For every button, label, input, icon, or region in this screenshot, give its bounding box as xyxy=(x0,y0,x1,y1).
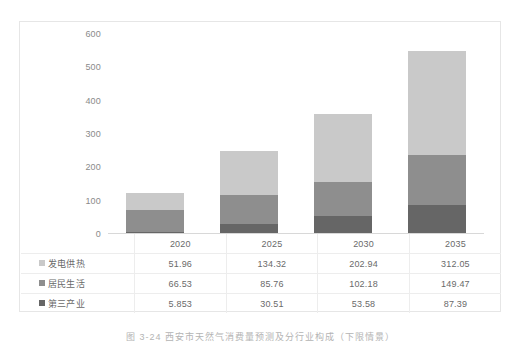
table-corner-cell xyxy=(21,234,135,254)
y-axis-tick-label: 400 xyxy=(85,96,101,106)
legend-item[interactable]: 发电供热 xyxy=(21,254,135,274)
figure-caption: 图 3-24 西安市天然气消费量预测及分行业构成（下限情景） xyxy=(0,330,521,343)
bar-slot xyxy=(202,34,296,234)
bar-segment[interactable] xyxy=(408,51,466,155)
table-cell: 87.39 xyxy=(409,294,501,314)
legend-swatch-icon xyxy=(39,260,45,266)
bar-slot xyxy=(108,34,202,234)
bar-slot xyxy=(390,34,484,234)
y-axis-tick-label: 600 xyxy=(85,29,101,39)
bar-segment[interactable] xyxy=(314,114,372,182)
table-cell: 66.53 xyxy=(135,274,227,294)
table-cell: 30.51 xyxy=(226,294,318,314)
bar-segment[interactable] xyxy=(220,151,278,196)
y-axis-tick-label: 500 xyxy=(85,62,101,72)
table-column-header: 2025 xyxy=(226,234,318,254)
bar-segment[interactable] xyxy=(126,210,184,232)
legend-label: 第三产业 xyxy=(48,299,85,309)
plot-area: 6005004003002001000 xyxy=(108,34,484,262)
bar-group xyxy=(108,34,484,234)
table-cell: 102.18 xyxy=(318,274,410,294)
data-table: 2020202520302035发电供热51.96134.32202.94312… xyxy=(21,234,501,313)
table-column-header: 2020 xyxy=(135,234,227,254)
table-cell: 51.96 xyxy=(135,254,227,274)
table-cell: 134.32 xyxy=(226,254,318,274)
table-cell: 312.05 xyxy=(409,254,501,274)
legend-swatch-icon xyxy=(39,300,45,306)
chart-container: 6005004003002001000 2020202520302035发电供热… xyxy=(19,21,501,312)
bar-segment[interactable] xyxy=(220,195,278,224)
stacked-bar[interactable] xyxy=(314,114,372,234)
y-axis-tick-label: 300 xyxy=(85,129,101,139)
bar-segment[interactable] xyxy=(408,155,466,205)
table-cell: 149.47 xyxy=(409,274,501,294)
table-header-row: 2020202520302035 xyxy=(21,234,501,254)
table-cell: 202.94 xyxy=(318,254,410,274)
bar-slot xyxy=(296,34,390,234)
stacked-bar[interactable] xyxy=(220,151,278,235)
table-cell: 5.853 xyxy=(135,294,227,314)
bar-segment[interactable] xyxy=(126,193,184,210)
table-row: 第三产业5.85330.5153.5887.39 xyxy=(21,294,501,314)
stacked-bar[interactable] xyxy=(126,193,184,234)
legend-swatch-icon xyxy=(39,280,45,286)
legend-item[interactable]: 第三产业 xyxy=(21,294,135,314)
table-row: 发电供热51.96134.32202.94312.05 xyxy=(21,254,501,274)
stacked-bar[interactable] xyxy=(408,51,466,234)
y-axis-tick-label: 100 xyxy=(85,196,101,206)
legend-label: 居民生活 xyxy=(48,279,85,289)
table-column-header: 2030 xyxy=(318,234,410,254)
bar-segment[interactable] xyxy=(314,182,372,216)
bar-segment[interactable] xyxy=(314,216,372,234)
table-cell: 53.58 xyxy=(318,294,410,314)
legend-label: 发电供热 xyxy=(48,259,85,269)
y-axis-tick-label: 200 xyxy=(85,162,101,172)
table-row: 居民生活66.5385.76102.18149.47 xyxy=(21,274,501,294)
bar-segment[interactable] xyxy=(408,205,466,234)
legend-item[interactable]: 居民生活 xyxy=(21,274,135,294)
table-cell: 85.76 xyxy=(226,274,318,294)
table-column-header: 2035 xyxy=(409,234,501,254)
